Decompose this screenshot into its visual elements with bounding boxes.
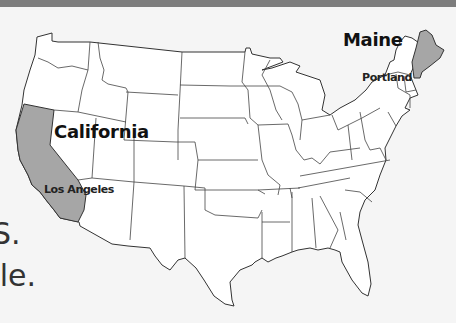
maine-shape bbox=[412, 30, 444, 78]
los-angeles-label: Los Angeles bbox=[44, 183, 114, 196]
california-label: California bbox=[54, 121, 149, 142]
portland-label: Portland bbox=[362, 71, 412, 84]
maine-label: Maine bbox=[343, 29, 403, 50]
side-text-line2: yle. bbox=[0, 258, 36, 293]
side-text-line1: S. bbox=[0, 216, 21, 251]
